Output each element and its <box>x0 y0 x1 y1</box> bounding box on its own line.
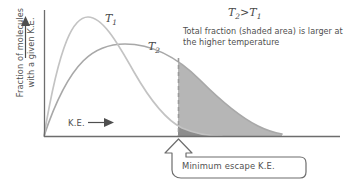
curve-label-t1: T1 <box>105 12 117 27</box>
y-axis-label: Fraction of molecules with a given K.E. <box>15 0 36 118</box>
x-axis-arrow-icon <box>88 118 114 127</box>
y-axis-label-line2: with a given K.E. <box>25 17 35 87</box>
x-axis-label: K.E. <box>68 118 85 128</box>
callout-arrow-icon <box>165 139 306 178</box>
figure-subtitle: Total fraction (shaded area) is larger a… <box>183 26 343 47</box>
callout-label: Minimum escape K.E. <box>182 161 275 171</box>
maxwell-boltzmann-figure: Fraction of molecules with a given K.E. … <box>0 0 344 188</box>
y-axis-label-line1: Fraction of molecules <box>15 8 25 97</box>
curve-label-t2: T2 <box>148 40 160 55</box>
figure-title: T2>T1 <box>228 6 261 21</box>
